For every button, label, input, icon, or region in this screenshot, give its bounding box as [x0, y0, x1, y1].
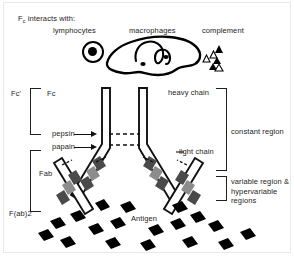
label-antigen: Antigen: [131, 214, 157, 223]
label-variable-region: variable region & hypervariable regions: [231, 177, 289, 206]
label-heavy-chain: heavy chain: [168, 88, 209, 97]
disulfide-bonds: [62, 134, 187, 165]
label-light-chain: light chain: [179, 147, 214, 156]
label-constant-region: constant region: [231, 127, 284, 136]
figure-canvas: Fc interacts with: lymphocytes macrophag…: [0, 0, 294, 256]
antigen-particles: [38, 199, 256, 251]
